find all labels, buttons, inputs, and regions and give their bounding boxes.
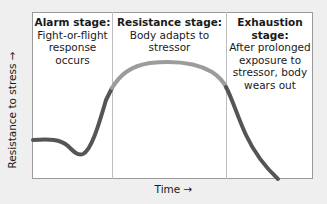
alarm-stage-title: Alarm stage:	[33, 16, 112, 29]
resistance-stage-title: Resistance stage:	[113, 16, 226, 29]
exhaustion-stage-label: Exhaustion stage: After prolonged exposu…	[228, 16, 312, 91]
exhaustion-stage-description: After prolonged exposure to stressor, bo…	[228, 41, 312, 91]
resistance-curve-segment	[112, 62, 226, 88]
alarm-stage-description: Fight-or-flight response occurs	[33, 29, 112, 67]
alarm-curve-segment	[33, 88, 112, 155]
alarm-stage-label: Alarm stage: Fight-or-flight response oc…	[33, 16, 112, 66]
y-axis-label: Resistance to stress →	[2, 40, 22, 180]
resistance-stage-description: Body adapts to stressor	[113, 29, 226, 54]
x-axis-label: Time →	[0, 183, 327, 195]
exhaustion-curve-segment	[226, 87, 278, 179]
resistance-stage-label: Resistance stage: Body adapts to stresso…	[113, 16, 226, 54]
exhaustion-stage-title: Exhaustion stage:	[228, 16, 312, 41]
